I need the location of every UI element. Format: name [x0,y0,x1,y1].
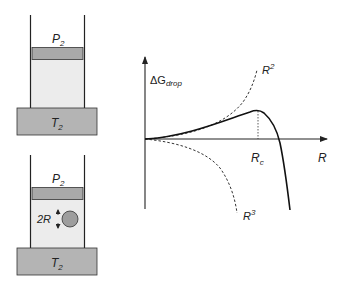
x-axis-label: R [318,151,327,165]
piston [32,188,83,200]
bottom-cylinder: P2 2R T2 [17,155,97,275]
piston [32,48,83,60]
top-cylinder: P2 T2 [17,15,97,135]
y-axis-label: ΔGdrop [150,74,182,88]
liquid-drop [62,211,78,227]
volume-term-curve [145,139,237,213]
surface-term-label: R2 [262,62,275,76]
piston-label: P2 [52,32,65,48]
drop-diameter-label: 2R [36,213,51,225]
nucleation-diagram: P2 T2 P2 2R T2 ΔGdrop R R2 R3 Rc [0,0,341,288]
gas-region [31,59,84,109]
free-energy-graph: ΔGdrop R R2 R3 Rc [145,57,327,222]
volume-term-label: R3 [243,208,256,222]
delta-g-curve [145,111,290,210]
piston-label: P2 [52,172,65,188]
critical-radius-label: Rc [251,151,264,167]
